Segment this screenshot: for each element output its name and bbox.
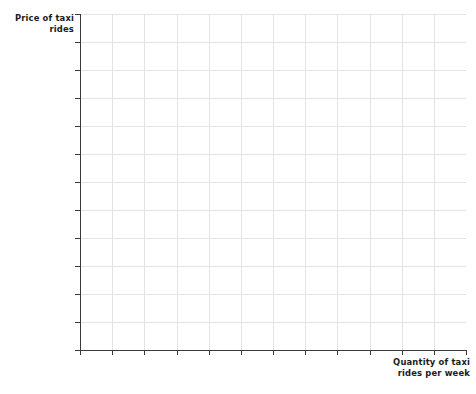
x-axis-label: Quantity of taxi rides per week	[330, 357, 476, 379]
gridlines	[80, 14, 466, 350]
y-axis-label: Price of taxi rides	[0, 13, 74, 35]
plot-area[interactable]	[80, 14, 466, 350]
graph-figure: Price of taxi rides Quantity of taxi rid…	[0, 0, 476, 394]
